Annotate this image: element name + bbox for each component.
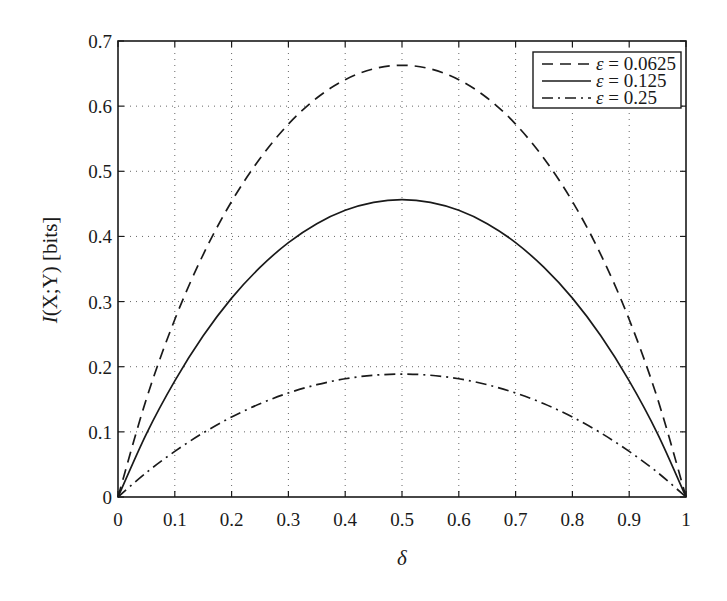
x-tick-label: 0.5: [390, 509, 414, 530]
y-tick-label: 0.2: [88, 357, 112, 378]
legend-label: ε = 0.25: [596, 87, 657, 108]
legend-epsilon-value: = 0.25: [604, 87, 657, 108]
y-axis-label-unit: [bits]: [38, 217, 62, 267]
y-tick-label: 0.3: [88, 292, 112, 313]
x-tick-label: 0.2: [220, 509, 244, 530]
x-tick-label: 0.6: [447, 509, 471, 530]
y-axis-label: I(X;Y) [bits]: [38, 217, 62, 325]
x-tick-label: 0.9: [617, 509, 641, 530]
x-tick-label: 1: [681, 509, 691, 530]
y-axis-label-args: (X;Y): [38, 266, 62, 316]
x-tick-label: 0.7: [504, 509, 528, 530]
x-tick-label: 0.4: [333, 509, 357, 530]
legend: ε = 0.0625ε = 0.125ε = 0.25: [533, 52, 681, 108]
x-axis-label: δ: [397, 546, 408, 570]
y-tick-label: 0.7: [88, 31, 112, 52]
x-tick-label: 0.8: [561, 509, 585, 530]
y-tick-label: 0.1: [88, 422, 112, 443]
mutual-information-chart: 00.10.20.30.40.50.60.70.80.91 00.10.20.3…: [0, 0, 727, 601]
x-tick-label: 0: [113, 509, 123, 530]
x-tick-label: 0.3: [277, 509, 301, 530]
y-tick-label: 0.5: [88, 161, 112, 182]
y-tick-label: 0: [103, 487, 113, 508]
y-tick-label: 0.4: [88, 226, 112, 247]
x-tick-label: 0.1: [163, 509, 187, 530]
y-tick-label: 0.6: [88, 96, 112, 117]
